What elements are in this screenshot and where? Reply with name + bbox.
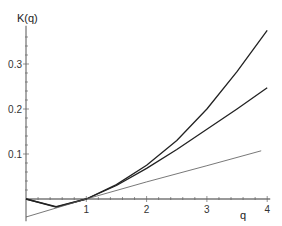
- series-line-0: [26, 30, 267, 207]
- ticks: 12340.10.20.3: [8, 37, 270, 215]
- series-group: [26, 30, 267, 217]
- x-axis-title: q: [240, 209, 246, 221]
- y-tick-label: 0.2: [8, 104, 22, 115]
- x-tick-label: 2: [144, 204, 150, 215]
- series-line-1: [26, 88, 267, 207]
- x-tick-label: 1: [84, 204, 90, 215]
- y-axis-title: K(q): [17, 12, 38, 24]
- y-tick-label: 0.3: [8, 59, 22, 70]
- y-tick-label: 0.1: [8, 149, 22, 160]
- x-tick-label: 4: [264, 204, 270, 215]
- x-tick-label: 3: [204, 204, 210, 215]
- chart: 12340.10.20.3 K(q) q: [0, 0, 282, 226]
- axes: [26, 26, 270, 222]
